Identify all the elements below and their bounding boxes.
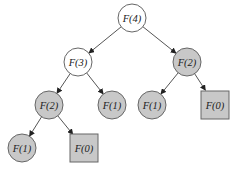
node-label: F(2) — [177, 57, 197, 69]
node-label: F(0) — [74, 143, 94, 155]
node-label: F(0) — [205, 100, 225, 112]
tree-node-f0: F(0) — [201, 91, 229, 119]
tree-node-f1: F(1) — [98, 91, 126, 119]
node-label: F(4) — [122, 13, 142, 25]
edge-n1-n2 — [89, 27, 121, 53]
tree-node-f1: F(1) — [138, 91, 166, 119]
edges-layer — [29, 27, 205, 136]
nodes-layer: F(4)F(3)F(2)F(2)F(1)F(1)F(0)F(1)F(0) — [8, 4, 229, 162]
edge-n3-n6 — [161, 73, 178, 94]
tree-node-f3: F(3) — [64, 48, 92, 76]
tree-node-f4: F(4) — [118, 4, 146, 32]
tree-node-f2: F(2) — [173, 48, 201, 76]
tree-node-f0: F(0) — [70, 134, 98, 162]
node-label: F(1) — [102, 100, 122, 112]
edge-n2-n4 — [57, 74, 70, 94]
tree-node-f2: F(2) — [35, 91, 63, 119]
node-label: F(1) — [12, 143, 32, 155]
tree-node-f1: F(1) — [8, 134, 36, 162]
edge-n2-n5 — [87, 73, 104, 94]
edge-n1-n3 — [143, 27, 176, 54]
node-label: F(1) — [142, 100, 162, 112]
node-label: F(3) — [68, 57, 88, 69]
node-label: F(2) — [39, 100, 59, 112]
edge-n4-n8 — [29, 117, 41, 136]
edge-n3-n7 — [195, 74, 206, 91]
recursion-tree: F(4)F(3)F(2)F(2)F(1)F(1)F(0)F(1)F(0) — [0, 0, 237, 174]
edge-n4-n9 — [58, 116, 73, 135]
